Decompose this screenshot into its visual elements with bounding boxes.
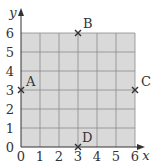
point-label: D bbox=[82, 130, 92, 145]
svg-text:2: 2 bbox=[6, 102, 14, 117]
svg-text:4: 4 bbox=[6, 64, 14, 79]
svg-text:0: 0 bbox=[6, 140, 14, 155]
svg-text:6: 6 bbox=[6, 26, 14, 41]
y-axis-label: y bbox=[8, 5, 17, 20]
x-tick-labels: 0123456 bbox=[17, 149, 139, 164]
svg-text:6: 6 bbox=[131, 149, 139, 164]
svg-text:4: 4 bbox=[93, 149, 101, 164]
svg-text:5: 5 bbox=[6, 45, 14, 60]
svg-text:1: 1 bbox=[6, 121, 14, 136]
x-axis-label: x bbox=[142, 148, 150, 163]
point-label: B bbox=[83, 16, 93, 31]
svg-text:2: 2 bbox=[55, 149, 63, 164]
y-tick-labels: 0123456 bbox=[6, 26, 14, 155]
point-label: A bbox=[25, 74, 36, 89]
svg-text:5: 5 bbox=[112, 149, 120, 164]
svg-text:1: 1 bbox=[36, 149, 44, 164]
coordinate-grid-chart: 0123456 0123456 x y ABCD bbox=[0, 0, 152, 164]
point-label: C bbox=[141, 74, 151, 89]
svg-text:3: 3 bbox=[74, 149, 82, 164]
svg-text:3: 3 bbox=[6, 83, 14, 98]
svg-text:0: 0 bbox=[17, 149, 25, 164]
